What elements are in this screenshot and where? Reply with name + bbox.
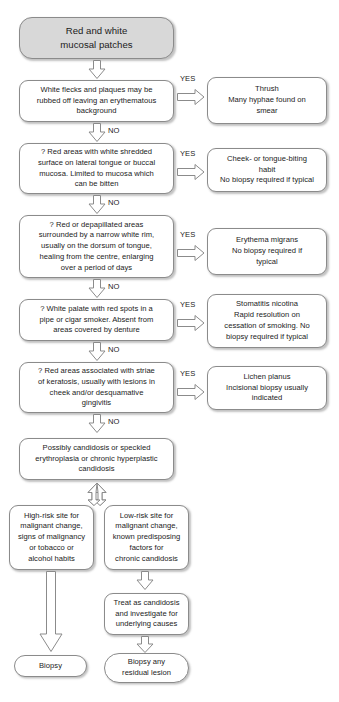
arrow-q3-no <box>87 279 107 299</box>
edge-label-yes-3: YES <box>180 231 195 239</box>
arrow-q5-no <box>87 414 107 434</box>
edge-label-yes-4: YES <box>180 301 195 309</box>
arrow-split-branches <box>72 482 122 506</box>
node-start: Red and whitemucosal patches <box>19 17 174 59</box>
node-q3-text: ? Red or depapillated areassurrounded by… <box>24 220 169 274</box>
node-a1: ThrushMany hyphae found onsmear <box>207 77 327 124</box>
node-q1-text: White flecks and plaques may berubbed of… <box>24 85 169 117</box>
node-q1: White flecks and plaques may berubbed of… <box>19 80 174 122</box>
node-q5: ? Red areas associated with striaeof ker… <box>19 362 174 413</box>
node-biopsy: Biopsy <box>14 655 87 677</box>
node-a3-text: Erythema migransNo biopsy required iftyp… <box>212 235 322 267</box>
arrow-branch-left-to-biopsy <box>38 571 64 653</box>
arrow-q3-yes <box>177 244 205 262</box>
node-a2: Cheek- or tongue-bitinghabitNo biopsy re… <box>207 148 327 192</box>
arrow-q1-yes <box>177 88 205 106</box>
node-start-text: Red and whitemucosal patches <box>24 24 169 52</box>
node-q4-text: ? White palate with red spots in apipe o… <box>24 304 169 336</box>
edge-label-no-5: NO <box>108 418 119 426</box>
arrow-branch-right-to-treat <box>135 571 155 591</box>
node-biopsy-text: Biopsy <box>19 661 82 672</box>
edge-label-no-4: NO <box>108 346 119 354</box>
node-a4-text: Stomatitis nicotinaRapid resolution once… <box>212 299 322 342</box>
flowchart-canvas: Red and whitemucosal patches White fleck… <box>0 0 339 702</box>
node-a1-text: ThrushMany hyphae found onsmear <box>212 84 322 116</box>
node-outcome: Possibly candidosis or specklederythropl… <box>19 438 174 480</box>
node-biopsy-residual: Biopsy anyresidual lesion <box>104 653 189 683</box>
arrow-start-to-q1 <box>87 60 107 80</box>
node-q2: ? Red areas with white shreddedsurface o… <box>19 143 174 194</box>
node-a4: Stomatitis nicotinaRapid resolution once… <box>207 294 327 348</box>
node-outcome-text: Possibly candidosis or specklederythropl… <box>24 443 169 475</box>
edge-label-no-2: NO <box>108 199 119 207</box>
node-a3: Erythema migransNo biopsy required iftyp… <box>207 228 327 275</box>
node-q2-text: ? Red areas with white shreddedsurface o… <box>24 147 169 190</box>
edge-label-no-3: NO <box>108 283 119 291</box>
node-branch-right-text: Low-risk site formalignant change,known … <box>109 511 184 565</box>
node-branch-left: High-risk site formalignant change,signs… <box>9 505 94 570</box>
edge-label-yes-5: YES <box>180 370 195 378</box>
arrow-q4-yes <box>177 314 205 332</box>
arrow-q2-yes <box>177 163 205 181</box>
arrow-treat-to-biopsy-residual <box>135 636 155 654</box>
arrow-q1-no <box>87 123 107 143</box>
edge-label-yes-1: YES <box>180 75 195 83</box>
arrow-q5-yes <box>177 383 205 401</box>
node-treat-text: Treat as candidosisand investigate forun… <box>109 598 184 630</box>
node-q3: ? Red or depapillated areassurrounded by… <box>19 215 174 278</box>
arrow-q2-no <box>87 195 107 215</box>
edge-label-yes-2: YES <box>180 150 195 158</box>
node-q4: ? White palate with red spots in apipe o… <box>19 299 174 341</box>
arrow-q4-no <box>87 342 107 362</box>
node-treat: Treat as candidosisand investigate forun… <box>104 593 189 635</box>
node-biopsy-residual-text: Biopsy anyresidual lesion <box>109 657 184 679</box>
node-a5: Lichen planusIncisional biopsy usuallyin… <box>207 366 327 410</box>
node-q5-text: ? Red areas associated with striaeof ker… <box>24 366 169 409</box>
node-a5-text: Lichen planusIncisional biopsy usuallyin… <box>212 372 322 404</box>
node-branch-right: Low-risk site formalignant change,known … <box>104 505 189 570</box>
edge-label-no-1: NO <box>108 127 119 135</box>
node-branch-left-text: High-risk site formalignant change,signs… <box>14 511 89 565</box>
node-a2-text: Cheek- or tongue-bitinghabitNo biopsy re… <box>212 154 322 186</box>
